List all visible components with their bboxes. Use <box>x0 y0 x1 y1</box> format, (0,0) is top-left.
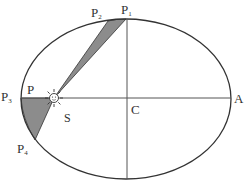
label-p4: P4 <box>17 141 28 157</box>
label-p2: P2 <box>91 5 102 21</box>
label-p1: P1 <box>121 2 132 18</box>
label-p3: P3 <box>1 89 12 105</box>
label-p: P <box>27 82 34 97</box>
label-a: A <box>234 91 244 106</box>
label-c: C <box>131 102 140 117</box>
shaded-sector-p3-p4 <box>21 98 54 140</box>
label-s: S <box>64 111 71 125</box>
kepler-orbit-diagram: P1 P2 P3 P4 P A C S <box>0 0 246 182</box>
sun-icon <box>45 89 63 107</box>
shaded-sector-p1-p2 <box>54 19 126 98</box>
